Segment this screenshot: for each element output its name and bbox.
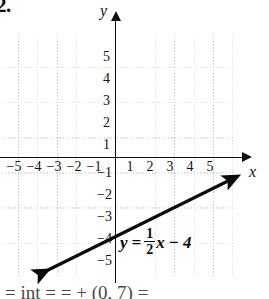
fraction-numerator: 1 bbox=[145, 227, 154, 240]
coordinate-plane-figure: 2. x y −5 −4 −3 −2 −1 1 2 3 4 5 5 4 3 2 … bbox=[0, 0, 269, 299]
equation-annotation: y = 1 2 x − 4 bbox=[120, 228, 192, 257]
fraction-denominator: 2 bbox=[145, 243, 154, 256]
equation-lhs: y bbox=[120, 234, 128, 251]
clipped-next-line-text: ) = int = = + (0, 7) = bbox=[0, 283, 269, 299]
equation-minus-sign: − bbox=[169, 234, 179, 251]
equation-fraction: 1 2 bbox=[144, 227, 155, 256]
line-segment bbox=[40, 180, 230, 274]
equation-equals-sign: = bbox=[132, 234, 142, 251]
equation-constant: 4 bbox=[183, 234, 192, 251]
equation-variable: x bbox=[156, 234, 165, 251]
